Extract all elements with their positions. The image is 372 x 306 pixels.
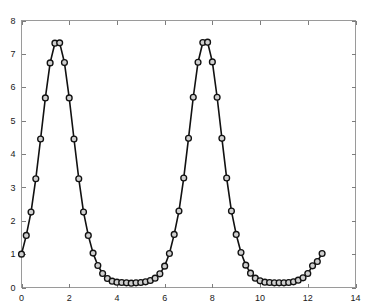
data-point [95,263,101,269]
data-point [190,94,196,100]
y-tick-label-3: 3 [10,183,15,193]
y-axis-tick-labels: 012345678 [10,16,15,293]
data-point [47,60,53,66]
axis-frame-path [22,21,356,288]
data-point [19,251,25,257]
data-point [319,251,325,257]
figure-root: 02468101214 012345678 [0,0,372,306]
data-point [300,275,306,281]
data-point [248,270,254,276]
data-point [224,175,230,181]
data-point [85,233,91,239]
y-tick-label-7: 7 [10,49,15,59]
line-chart: 02468101214 012345678 [0,0,372,306]
data-point [81,209,87,215]
data-point [90,250,96,256]
data-point [100,271,106,277]
data-point [76,176,82,182]
data-point [209,59,215,65]
data-point [62,60,68,66]
data-point [229,208,235,214]
axes-frame [22,21,356,288]
data-point [57,40,63,46]
x-tick-label-4: 4 [114,293,119,303]
data-point [310,263,316,269]
data-point [66,95,72,101]
x-tick-label-6: 6 [162,293,167,303]
x-tick-label-0: 0 [19,293,24,303]
data-point [42,95,48,101]
data-point [314,259,320,265]
data-point [233,232,239,238]
data-point [219,135,225,141]
data-point [176,208,182,214]
data-point [186,135,192,141]
data-markers-series-1 [19,39,325,286]
data-point [167,251,173,257]
y-axis-ticks [22,22,356,289]
data-point [162,263,168,269]
data-point [171,232,177,238]
x-tick-label-14: 14 [350,293,360,303]
data-point [243,262,249,268]
data-point [38,136,44,142]
data-point [305,271,311,277]
data-point [205,39,211,45]
data-point [157,271,163,277]
data-point [152,275,158,281]
data-line-series-1 [22,42,323,283]
data-point [195,59,201,65]
y-tick-label-2: 2 [10,216,15,226]
y-tick-label-6: 6 [10,82,15,92]
x-axis-ticks [23,21,357,288]
data-point [28,209,34,215]
y-tick-label-0: 0 [10,283,15,293]
y-tick-label-8: 8 [10,16,15,26]
data-point [33,176,39,182]
data-point [23,233,29,239]
y-tick-label-4: 4 [10,149,15,159]
x-tick-label-12: 12 [303,293,313,303]
x-tick-label-8: 8 [210,293,215,303]
data-point [71,136,77,142]
data-point [181,175,187,181]
data-point [214,94,220,100]
y-tick-label-1: 1 [10,249,15,259]
data-point [238,250,244,256]
x-tick-label-10: 10 [255,293,265,303]
y-tick-label-5: 5 [10,116,15,126]
x-tick-label-2: 2 [67,293,72,303]
x-axis-tick-labels: 02468101214 [19,293,361,303]
